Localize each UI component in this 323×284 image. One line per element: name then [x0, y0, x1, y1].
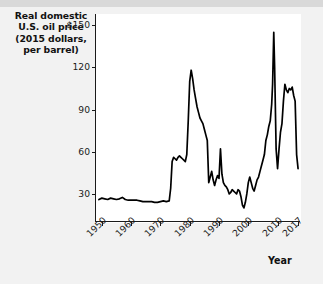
- y-axis-tick-label: $150: [50, 19, 90, 30]
- y-axis-tick-mark: [92, 110, 97, 111]
- y-axis-tick-mark: [92, 194, 97, 195]
- plot-frame: [95, 14, 300, 222]
- y-axis-tick-mark: [92, 152, 97, 153]
- data-series-line: [96, 14, 301, 222]
- y-axis-tick-label: 60: [50, 146, 90, 157]
- y-axis-tick-mark: [92, 67, 97, 68]
- oil-price-chart-figure: Real domestic U.S. oil price (2015 dolla…: [0, 0, 323, 284]
- y-axis-tick-labels: $150120906030: [48, 0, 90, 284]
- y-axis-tick-label: 90: [50, 104, 90, 115]
- y-axis-tick-label: 30: [50, 188, 90, 199]
- x-axis-title: Year: [268, 255, 292, 266]
- y-axis-tick-mark: [92, 25, 97, 26]
- y-axis-tick-label: 120: [50, 61, 90, 72]
